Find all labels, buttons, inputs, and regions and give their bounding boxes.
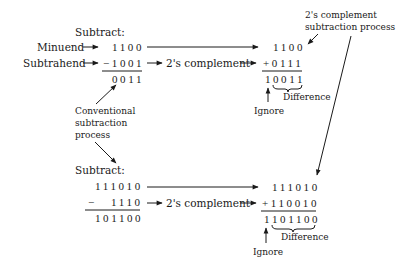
top-tc-addend: +0111 — [263, 57, 303, 69]
conventional-annotation: Conventional subtraction process — [75, 85, 135, 163]
subtrahend-label: Subtrahend — [23, 57, 86, 69]
twos-line1: 2's complement — [305, 10, 377, 20]
bottom-subtract-label: Subtract: — [75, 164, 125, 176]
bottom-subtrahend: 1110 — [111, 196, 143, 208]
bottom-difference-brace — [272, 225, 315, 232]
top-complement-label: 2's complement — [166, 57, 251, 69]
top-tc-carry: 1 — [265, 73, 273, 85]
subtraction-diagram: Subtract: Minuend 1100 Subtrahend −1001 … — [0, 0, 409, 266]
top-ignore-label: Ignore — [254, 106, 284, 116]
bottom-tc-addend: +110010 — [262, 197, 319, 209]
top-difference-brace — [273, 85, 302, 92]
top-difference-label: Difference — [283, 92, 331, 102]
bottom-minuend: 111010 — [95, 180, 143, 192]
bottom-tc-result: 101100 — [272, 213, 320, 225]
top-tc-minuend: 1100 — [273, 41, 305, 53]
twos-line2: subtraction process — [305, 22, 396, 32]
bottom-example: Subtract: 111010 − 1110 101100 2's compl… — [75, 164, 329, 257]
top-minuend: 1100 — [112, 41, 144, 53]
top-subtract-label: Subtract: — [75, 26, 125, 38]
top-tc-result: 0011 — [273, 73, 305, 85]
bottom-tc-carry: 1 — [264, 213, 272, 225]
bottom-ignore-label: Ignore — [253, 247, 283, 257]
bottom-difference-label: Difference — [281, 232, 329, 242]
bottom-conventional-result: 101100 — [95, 212, 143, 224]
bottom-minus-sign: − — [88, 196, 97, 208]
top-subtrahend: −1001 — [103, 57, 144, 69]
minuend-label: Minuend — [37, 41, 85, 53]
twos-arrow-bottom — [317, 36, 351, 175]
twos-arrow-top — [308, 34, 318, 44]
bottom-complement-label: 2's complement — [166, 197, 251, 209]
conventional-line3: process — [75, 130, 110, 140]
conventional-arrow-up — [96, 85, 116, 104]
conventional-line2: subtraction — [75, 118, 127, 128]
top-example: Subtract: Minuend 1100 Subtrahend −1001 … — [23, 26, 331, 116]
conventional-line1: Conventional — [75, 106, 135, 116]
conventional-arrow-down — [95, 142, 116, 163]
top-conventional-result: 0011 — [112, 73, 144, 85]
bottom-tc-minuend: 111010 — [272, 181, 320, 193]
